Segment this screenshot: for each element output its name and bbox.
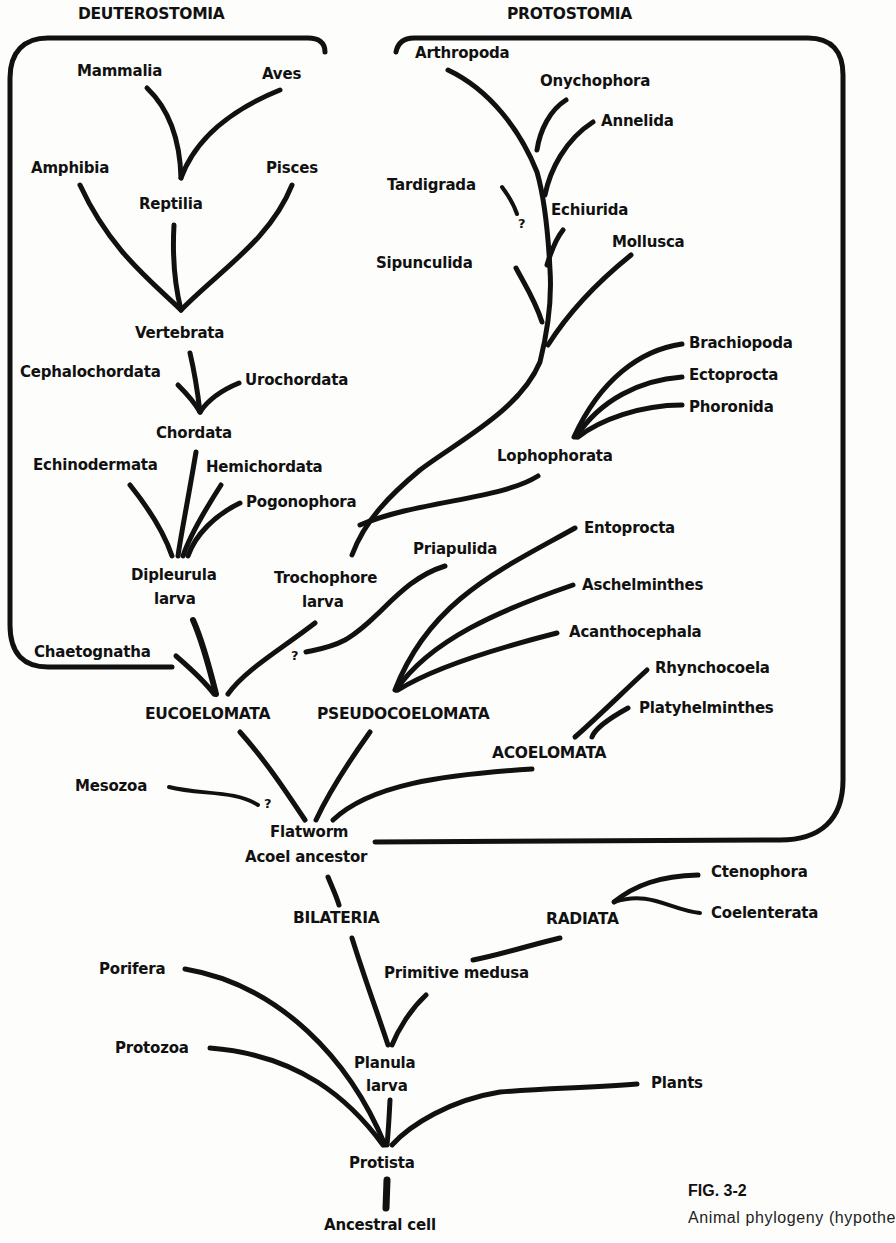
branch-medusa-planula	[392, 995, 426, 1045]
group-bilateria: BILATERIA	[293, 910, 379, 927]
group-radiata: RADIATA	[546, 911, 619, 928]
taxon-tardigrada: Tardigrada	[387, 177, 476, 194]
branch-mesozoa	[169, 787, 258, 805]
taxon-porifera: Porifera	[99, 961, 165, 978]
branch-tardigrada	[502, 187, 517, 214]
taxon-pisces: Pisces	[266, 160, 318, 177]
taxon-dipleurula-larva-line1: Dipleurula	[131, 567, 217, 584]
branch-platyhelminthes	[592, 708, 628, 737]
uncertain-mark-priapulida: ?	[291, 648, 299, 663]
taxon-amphibia: Amphibia	[31, 160, 109, 177]
taxon-sipunculida: Sipunculida	[376, 255, 473, 272]
taxon-protista: Protista	[349, 1155, 415, 1172]
branch-flatworm-bilateria	[328, 877, 339, 905]
branch-pseudocoelomata	[316, 732, 370, 820]
taxon-urochordata: Urochordata	[245, 372, 348, 389]
taxon-trochophore-larva-line1: Trochophore	[274, 570, 377, 587]
taxon-annelida: Annelida	[601, 113, 674, 130]
branch-mollusca	[548, 255, 631, 345]
branch-urochordata	[200, 383, 239, 412]
taxon-lophophorata: Lophophorata	[497, 448, 613, 465]
taxon-brachiopoda: Brachiopoda	[689, 335, 793, 352]
taxon-acanthocephala: Acanthocephala	[569, 624, 702, 641]
uncertain-mark-mesozoa: ?	[264, 796, 272, 811]
taxon-platyhelminthes: Platyhelminthes	[639, 700, 774, 717]
taxon-reptilia: Reptilia	[139, 196, 203, 213]
taxon-mollusca: Mollusca	[612, 234, 685, 251]
group-deuterostomia: DEUTEROSTOMIA	[78, 6, 225, 23]
taxon-planula-larva-line1: Planula	[354, 1055, 415, 1072]
group-pseudocoelomata: PSEUDOCOELOMATA	[317, 706, 489, 723]
taxon-protozoa: Protozoa	[115, 1040, 189, 1057]
branch-eucoelomata	[240, 732, 305, 820]
uncertain-mark-tardigrada: ?	[518, 216, 526, 231]
taxon-ectoprocta: Ectoprocta	[689, 367, 778, 384]
figure-caption: Animal phylogeny (hypothe	[688, 1209, 896, 1227]
taxon-vertebrata: Vertebrata	[135, 325, 224, 342]
taxon-aschelminthes: Aschelminthes	[582, 577, 703, 594]
taxon-arthropoda: Arthropoda	[415, 45, 509, 62]
taxon-planula-larva-line2: larva	[366, 1078, 408, 1095]
branch-acoelomata	[333, 769, 532, 820]
branch-annelida	[545, 122, 593, 195]
taxon-pogonophora: Pogonophora	[246, 494, 356, 511]
taxon-rhynchocoela: Rhynchocoela	[655, 660, 770, 677]
taxon-onychophora: Onychophora	[540, 73, 650, 90]
branch-radiata-medusa	[473, 938, 560, 960]
taxon-flatworm-line1: Flatworm	[270, 824, 348, 841]
group-eucoelomata: EUCOELOMATA	[145, 706, 270, 723]
taxon-dipleurula-larva-line2: larva	[154, 591, 196, 608]
branch-planula	[387, 1100, 390, 1145]
branch-reptilia	[173, 225, 181, 310]
branch-protista-ancestral	[386, 1180, 387, 1208]
taxon-ctenophora: Ctenophora	[711, 864, 808, 881]
branch-phoronida	[578, 405, 682, 437]
taxon-trochophore-larva-line2: larva	[302, 594, 344, 611]
group-acoelomata: ACOELOMATA	[492, 745, 606, 762]
taxon-aves: Aves	[262, 66, 301, 83]
figure-number: FIG. 3-2	[688, 1182, 747, 1200]
branch-onychophora	[537, 100, 566, 150]
taxon-ancestral-cell: Ancestral cell	[324, 1217, 436, 1234]
branch-trochophore-eucoel	[228, 623, 315, 694]
taxon-hemichordata: Hemichordata	[206, 459, 323, 476]
branch-coelenterata	[614, 898, 700, 913]
taxon-mammalia: Mammalia	[77, 63, 162, 80]
branch-plants	[392, 1084, 637, 1145]
taxon-flatworm-line2: Acoel ancestor	[245, 849, 367, 866]
taxon-cephalochordata: Cephalochordata	[20, 364, 161, 381]
taxon-entoprocta: Entoprocta	[584, 520, 675, 537]
taxon-coelenterata: Coelenterata	[711, 905, 818, 922]
branch-rhynchocoela	[575, 670, 647, 737]
branch-bilateria-planula	[352, 938, 388, 1045]
taxon-plants: Plants	[651, 1075, 703, 1092]
taxon-echiurida: Echiurida	[551, 202, 628, 219]
taxon-chordata: Chordata	[156, 425, 232, 442]
taxon-primitive-medusa: Primitive medusa	[384, 965, 529, 982]
branch-mammalia	[147, 88, 181, 178]
branch-echinodermata	[130, 485, 172, 556]
branch-sipunculida	[516, 268, 542, 322]
taxon-priapulida: Priapulida	[413, 541, 497, 558]
taxon-mesozoa: Mesozoa	[75, 778, 147, 795]
group-protostomia: PROTOSTOMIA	[507, 6, 632, 23]
taxon-echinodermata: Echinodermata	[33, 457, 158, 474]
taxon-chaetognatha: Chaetognatha	[34, 644, 151, 661]
taxon-phoronida: Phoronida	[689, 399, 774, 416]
